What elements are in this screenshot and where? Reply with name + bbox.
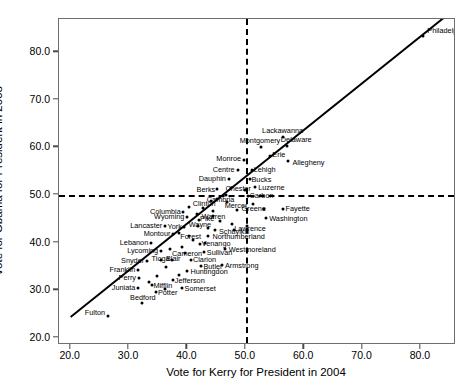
data-point	[260, 145, 263, 148]
data-point-label: Monroe	[216, 156, 241, 163]
data-point-label: Wayne	[189, 222, 211, 229]
data-point-label: Perry	[119, 275, 136, 282]
x-tick-mark	[127, 344, 128, 349]
data-point-label: Philadelphia	[427, 27, 454, 34]
data-point	[187, 206, 190, 209]
data-point-label: Fulton	[85, 310, 105, 317]
data-point	[254, 186, 257, 189]
data-point-label: Venango	[202, 240, 231, 247]
x-tick-label: 50.0	[235, 349, 255, 361]
data-point	[281, 208, 284, 211]
data-point-label: Armstrong	[225, 262, 259, 269]
data-point-label: Blair	[166, 256, 181, 263]
data-point	[137, 268, 140, 271]
data-point-label: Somerset	[185, 286, 216, 293]
x-tick-label: 60.0	[293, 349, 313, 361]
data-point	[172, 233, 175, 236]
data-point	[137, 287, 140, 290]
x-tick-mark	[69, 344, 70, 349]
data-point-label: Clinton	[193, 200, 216, 207]
x-axis-title: Vote for Kerry for President in 2004	[166, 366, 346, 378]
y-tick-label: 50.0	[4, 188, 50, 200]
data-point-label: Lackawanna	[262, 127, 303, 134]
data-point	[146, 260, 149, 263]
data-point-label: Westmoreland	[229, 247, 276, 254]
data-point	[202, 251, 205, 254]
data-point-label: Centre	[213, 167, 235, 174]
data-point	[422, 35, 425, 38]
data-point-label: Carbon	[250, 192, 274, 199]
data-point-label: Delaware	[281, 136, 312, 143]
data-point	[236, 169, 239, 172]
data-point-label: Bucks	[251, 176, 271, 183]
data-point-label: Montgomery	[240, 137, 281, 144]
data-point-label: Bedford	[130, 294, 156, 301]
x-tick-mark	[361, 344, 362, 349]
data-point-label: Greene	[242, 206, 266, 213]
x-tick-mark	[186, 344, 187, 349]
data-point-label: Wyoming	[154, 214, 184, 221]
data-point	[186, 270, 189, 273]
data-point-label: Fayette	[286, 206, 310, 213]
x-tick-mark	[244, 344, 245, 349]
x-tick-mark	[419, 344, 420, 349]
data-point	[265, 216, 268, 219]
data-point-label: Huntingdon	[190, 269, 227, 276]
data-point	[164, 225, 167, 228]
data-point	[180, 287, 183, 290]
data-point-label: Chester	[225, 185, 251, 192]
data-point-label: Washington	[269, 215, 307, 222]
data-point-label: Lawrence	[234, 225, 266, 232]
y-tick-label: 70.0	[4, 93, 50, 105]
data-point	[168, 248, 171, 251]
y-tick-label: 30.0	[4, 283, 50, 295]
data-point	[137, 277, 140, 280]
data-point	[160, 250, 163, 253]
data-point	[230, 222, 233, 225]
x-tick-mark	[303, 344, 304, 349]
data-point	[216, 187, 219, 190]
data-point-label: Allegheny	[292, 159, 324, 166]
data-point	[227, 177, 230, 180]
data-point-label: Snyder	[121, 258, 144, 265]
data-point	[186, 216, 189, 219]
data-point	[213, 229, 216, 232]
data-point-label: Montour	[144, 230, 171, 237]
data-point-label: Erie	[272, 151, 285, 158]
data-point-label: Lehigh	[254, 166, 276, 173]
data-point-label: Berks	[197, 186, 216, 193]
data-point-label: Forest	[180, 234, 201, 241]
y-tick-label: 40.0	[4, 236, 50, 248]
data-point	[147, 280, 150, 283]
data-point-label: Potter	[158, 290, 177, 297]
data-point	[156, 274, 159, 277]
data-point	[286, 145, 289, 148]
x-tick-label: 20.0	[59, 349, 79, 361]
x-tick-label: 70.0	[351, 349, 371, 361]
plot-frame: PhiladelphiaLackawannaMontgomeryDelaware…	[58, 18, 455, 344]
data-point	[150, 242, 153, 245]
data-point	[243, 159, 246, 162]
plot-area: PhiladelphiaLackawannaMontgomeryDelaware…	[59, 19, 454, 343]
data-point-label: Franklin	[109, 266, 135, 273]
data-point	[195, 213, 198, 216]
data-point	[165, 266, 168, 269]
y-tick-label: 60.0	[4, 140, 50, 152]
y-tick-label: 20.0	[4, 331, 50, 343]
data-point	[220, 263, 223, 266]
x-tick-label: 40.0	[176, 349, 196, 361]
data-point	[107, 315, 110, 318]
data-point	[287, 159, 290, 162]
chart-page: Vote for Obama for President in 2008 Vot…	[0, 0, 471, 389]
y-tick-label: 80.0	[4, 45, 50, 57]
x-tick-label: 30.0	[118, 349, 138, 361]
data-point	[207, 235, 210, 238]
data-point-label: Juniata	[112, 285, 136, 292]
x-tick-label: 80.0	[410, 349, 430, 361]
data-point	[182, 226, 185, 229]
data-point-label: Dauphin	[199, 175, 226, 182]
data-point-label: Jefferson	[175, 277, 205, 284]
